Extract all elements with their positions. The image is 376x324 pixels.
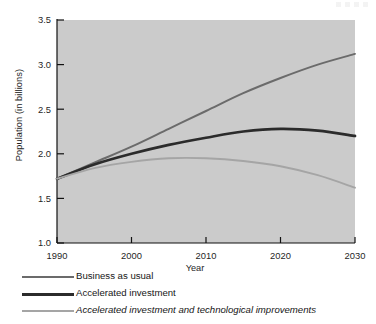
x-tick-label: 1990 bbox=[47, 250, 68, 261]
x-tick-label: 2020 bbox=[270, 250, 291, 261]
legend-item-accelerated-investment: Accelerated investment bbox=[22, 285, 176, 301]
legend-item-business-as-usual: Business as usual bbox=[22, 268, 153, 284]
x-tick-label: 2010 bbox=[196, 250, 217, 261]
y-tick-label: 3.5 bbox=[38, 14, 51, 25]
y-tick-label: 2.5 bbox=[38, 104, 51, 115]
y-tick-label: 1.5 bbox=[38, 193, 51, 204]
y-axis-title: Population (in billions) bbox=[14, 35, 24, 195]
legend-label-0: Business as usual bbox=[76, 271, 153, 281]
chart-legend: Business as usual Accelerated investment… bbox=[0, 268, 376, 324]
legend-label-2: Accelerated investment and technological… bbox=[76, 305, 316, 315]
x-tick-label: 2030 bbox=[345, 250, 366, 261]
chart-svg: 1.01.52.02.53.03.519902000201020202030 bbox=[0, 0, 376, 262]
x-tick-label: 2000 bbox=[121, 250, 142, 261]
legend-item-accelerated-investment-tech: Accelerated investment and technological… bbox=[22, 302, 316, 318]
y-tick-label: 1.0 bbox=[38, 237, 51, 248]
chart-plot-region: 1.01.52.02.53.03.519902000201020202030 P… bbox=[0, 0, 376, 262]
legend-label-1: Accelerated investment bbox=[76, 288, 176, 298]
chart-figure: 1.01.52.02.53.03.519902000201020202030 P… bbox=[0, 0, 376, 324]
plot-grain bbox=[57, 20, 355, 243]
y-tick-label: 3.0 bbox=[38, 59, 51, 70]
y-tick-label: 2.0 bbox=[38, 148, 51, 159]
